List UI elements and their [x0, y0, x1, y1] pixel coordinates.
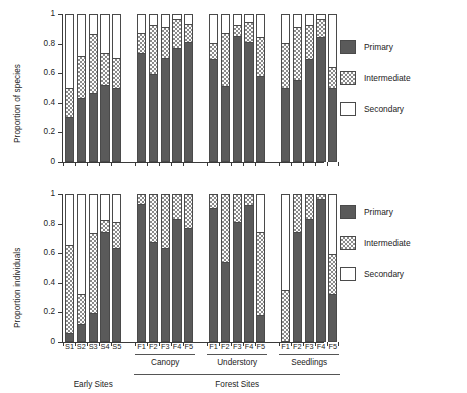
- bar-bottom-F5-19[interactable]: [328, 194, 337, 342]
- bar-top-S3-2[interactable]: [89, 14, 98, 162]
- group-bracket-canopy: [135, 354, 195, 355]
- bar-bottom-F3-17[interactable]: [305, 194, 314, 342]
- bar-bottom-F4-8[interactable]: [172, 194, 181, 342]
- bar-bottom-F4-18[interactable]: [316, 194, 325, 342]
- x-tick-mark: [207, 162, 208, 166]
- bar-top-F1-5[interactable]: [137, 14, 146, 162]
- bar-top-S1-0[interactable]: [65, 14, 74, 162]
- bar-segment-primary: [294, 80, 301, 162]
- bar-bottom-S1-0[interactable]: [65, 194, 74, 342]
- bar-segment-primary: [78, 324, 85, 342]
- bar-bottom-F3-7[interactable]: [161, 194, 170, 342]
- bar-segment-intermediate: [329, 67, 336, 88]
- bar-top-F5-9[interactable]: [184, 14, 193, 162]
- bar-bottom-F1-5[interactable]: [137, 194, 146, 342]
- bar-top-F4-13[interactable]: [244, 14, 253, 162]
- bar-bottom-F2-6[interactable]: [149, 194, 158, 342]
- y-tick-mark: [58, 73, 63, 74]
- legend-label-secondary: Secondary: [364, 104, 404, 114]
- y-tick-label: 0.8: [27, 219, 55, 228]
- chart-panel-individuals: Proportion individuals 00.20.40.60.81: [0, 183, 330, 363]
- y-axis-label-top: Proportion of species: [13, 64, 22, 143]
- bar-top-F2-11[interactable]: [221, 14, 230, 162]
- bar-top-F1-10[interactable]: [209, 14, 218, 162]
- x-tick-mark: [231, 162, 232, 166]
- bar-segment-secondary: [282, 15, 289, 43]
- bar-segment-intermediate: [138, 195, 145, 204]
- legend-item-primary[interactable]: Primary: [340, 40, 458, 56]
- bar-top-S4-3[interactable]: [100, 14, 109, 162]
- bar-bottom-S5-4[interactable]: [112, 194, 121, 342]
- bar-segment-intermediate: [245, 195, 252, 205]
- legend-item-intermediate[interactable]: Intermediate: [340, 71, 458, 87]
- bar-segment-secondary: [222, 15, 229, 33]
- bar-top-F2-16[interactable]: [293, 14, 302, 162]
- bar-top-F4-8[interactable]: [172, 14, 181, 162]
- legend-label-primary: Primary: [364, 42, 393, 52]
- legend-item-primary[interactable]: Primary: [340, 205, 458, 221]
- bar-top-F3-7[interactable]: [161, 14, 170, 162]
- legend-item-intermediate[interactable]: Intermediate: [340, 236, 458, 252]
- bar-segment-primary: [234, 222, 241, 342]
- x-tick-mark: [111, 162, 112, 166]
- x-tick-mark: [279, 162, 280, 166]
- bar-top-F4-18[interactable]: [316, 14, 325, 162]
- legend-item-secondary[interactable]: Secondary: [340, 267, 458, 283]
- bar-top-S5-4[interactable]: [112, 14, 121, 162]
- y-tick-label: 0.2: [27, 307, 55, 316]
- bar-top-F5-19[interactable]: [328, 14, 337, 162]
- bar-bottom-F1-10[interactable]: [209, 194, 218, 342]
- bar-segment-intermediate: [101, 220, 108, 232]
- bar-bottom-F2-16[interactable]: [293, 194, 302, 342]
- bar-segment-primary: [162, 58, 169, 162]
- group-bracket-understory: [207, 354, 267, 355]
- bar-segment-intermediate: [162, 195, 169, 248]
- y-tick-label: 1: [27, 189, 55, 198]
- x-tick-mark: [303, 162, 304, 166]
- bar-bottom-F3-12[interactable]: [233, 194, 242, 342]
- bar-segment-intermediate: [113, 58, 120, 88]
- bar-segment-intermediate: [101, 53, 108, 84]
- bar-top-F3-17[interactable]: [305, 14, 314, 162]
- bar-segment-primary: [185, 42, 192, 162]
- bar-bottom-S3-2[interactable]: [89, 194, 98, 342]
- bar-segment-intermediate: [162, 27, 169, 58]
- bar-segment-intermediate: [78, 56, 85, 97]
- bar-segment-primary: [150, 74, 157, 162]
- bar-bottom-F1-15[interactable]: [281, 194, 290, 342]
- bar-segment-primary: [113, 88, 120, 162]
- x-axis-line: [62, 162, 324, 163]
- bar-segment-primary: [234, 36, 241, 162]
- bar-top-S2-1[interactable]: [77, 14, 86, 162]
- super-group-label-forest-sites: Forest Sites: [112, 380, 362, 389]
- y-tick-mark: [58, 312, 63, 313]
- bar-top-F1-15[interactable]: [281, 14, 290, 162]
- bar-bottom-S2-1[interactable]: [77, 194, 86, 342]
- bar-bottom-F4-13[interactable]: [244, 194, 253, 342]
- legend-swatch-primary: [340, 205, 356, 219]
- group-label-seedlings: Seedlings: [261, 358, 357, 367]
- bar-segment-intermediate: [306, 25, 313, 59]
- y-axis-line: [62, 14, 63, 162]
- bar-top-F3-12[interactable]: [233, 14, 242, 162]
- x-tick-mark: [338, 162, 339, 166]
- legend-species: PrimaryIntermediateSecondary: [340, 40, 460, 120]
- chart-panel-species: Proportion of species 00.20.40.60.81: [0, 0, 330, 180]
- x-tick-mark: [315, 162, 316, 166]
- bar-segment-intermediate: [329, 254, 336, 294]
- bar-bottom-F2-11[interactable]: [221, 194, 230, 342]
- bar-top-F2-6[interactable]: [149, 14, 158, 162]
- bar-segment-secondary: [306, 15, 313, 25]
- bar-segment-secondary: [162, 15, 169, 27]
- legend-swatch-secondary: [340, 267, 356, 281]
- bar-segment-intermediate: [234, 25, 241, 35]
- bar-bottom-F5-14[interactable]: [256, 194, 265, 342]
- y-tick-mark: [58, 44, 63, 45]
- bar-bottom-S4-3[interactable]: [100, 194, 109, 342]
- bar-segment-primary: [317, 199, 324, 342]
- legend-item-secondary[interactable]: Secondary: [340, 102, 458, 118]
- bar-segment-secondary: [90, 15, 97, 34]
- bar-bottom-F5-9[interactable]: [184, 194, 193, 342]
- bar-segment-primary: [78, 98, 85, 162]
- bar-top-F5-14[interactable]: [256, 14, 265, 162]
